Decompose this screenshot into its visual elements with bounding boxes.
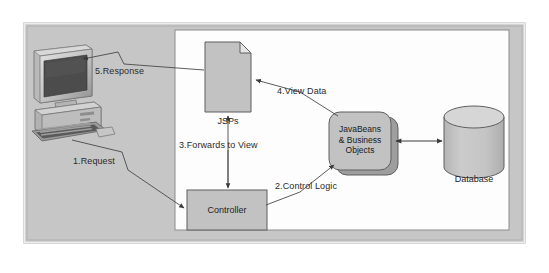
diagram-canvas: 5.Response 1.Request 3.Forwards to View … <box>0 0 549 273</box>
flow-label-control-logic: 2.Control Logic <box>275 181 337 191</box>
flow-label-view-data: 4.View Data <box>277 86 326 96</box>
javabeans-label-line1: JavaBeans <box>329 124 391 135</box>
flow-label-forwards-to-view: 3.Forwards to View <box>179 140 258 150</box>
javabeans-label-line2: & Business <box>329 135 391 146</box>
flow-label-request: 1.Request <box>73 156 115 166</box>
javabeans-label-line3: Objects <box>329 145 391 156</box>
flow-label-response: 5.Response <box>95 66 144 76</box>
jsps-label: JSPs <box>205 116 251 126</box>
database-node <box>444 106 504 178</box>
jsps-node <box>205 42 251 112</box>
architecture-diagram <box>0 0 549 273</box>
database-label: Database <box>444 174 504 184</box>
controller-label: Controller <box>187 205 267 215</box>
